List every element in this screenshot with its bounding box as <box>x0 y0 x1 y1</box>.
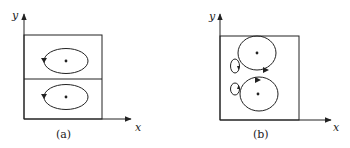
y-axis-label-b: y <box>208 10 216 23</box>
center-dot-upper-b <box>256 52 259 55</box>
domain-box-b <box>220 36 299 120</box>
center-dot-upper-a <box>65 60 68 63</box>
panel-a: y x (a) <box>11 9 142 141</box>
x-axis-label-a: x <box>135 121 142 134</box>
arrow-icon-upper-a <box>41 58 47 63</box>
domain-box-a <box>24 35 102 119</box>
figure: y x (a) y x (b) <box>0 0 350 148</box>
center-dot-lower-b <box>257 93 260 96</box>
panel-b: y x (b) <box>208 10 340 141</box>
arrow-icon-lower-a <box>41 94 47 99</box>
center-dot-lower-a <box>65 96 68 99</box>
y-axis-label-a: y <box>11 9 19 22</box>
x-axis-label-b: x <box>333 121 340 134</box>
arrow-icon-lower-b <box>255 77 261 83</box>
caption-b: (b) <box>253 128 269 141</box>
caption-a: (a) <box>56 128 71 141</box>
